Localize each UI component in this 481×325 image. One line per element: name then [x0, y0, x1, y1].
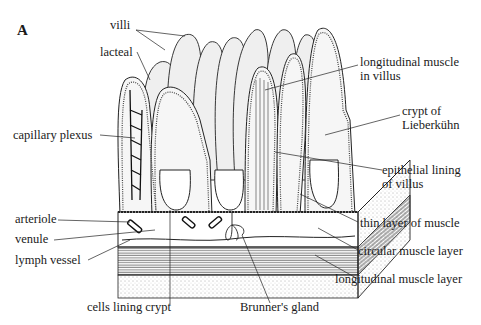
label-longitudinal-muscle-layer: longitudinal muscle layer [335, 272, 462, 286]
label-longitudinal-muscle-in-villus-2: in villus [360, 69, 401, 83]
label-epithelial-2: of villus [382, 177, 423, 191]
label-brunners-gland: Brunner's gland [240, 300, 319, 314]
label-crypt-1: crypt of [402, 104, 441, 118]
label-capillary-plexus: capillary plexus [13, 128, 93, 142]
panel-label: A [17, 22, 28, 39]
label-arteriole: arteriole [15, 212, 57, 226]
label-venule: venule [15, 232, 48, 246]
label-epithelial-1: epithelial lining [382, 163, 461, 177]
label-thin-muscle: thin layer of muscle [360, 216, 460, 230]
longitudinal-muscle-front [118, 275, 358, 298]
label-crypt-2: Lieberkühn [402, 118, 460, 132]
circular-muscle-front [118, 247, 358, 275]
label-cells-lining-crypt: cells lining crypt [87, 300, 171, 314]
label-longitudinal-muscle-in-villus-1: longitudinal muscle [360, 55, 459, 69]
label-villi: villi [110, 18, 130, 32]
label-circular-muscle: circular muscle layer [358, 244, 463, 258]
submucosa [118, 212, 358, 247]
label-lymph-vessel: lymph vessel [15, 253, 81, 267]
label-lacteal: lacteal [100, 45, 133, 59]
